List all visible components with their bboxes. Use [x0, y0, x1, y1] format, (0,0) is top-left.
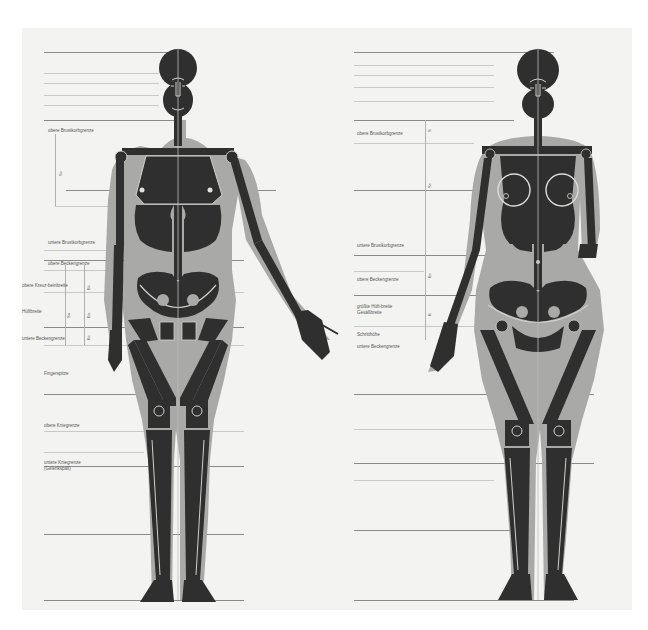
female-figure: [428, 48, 604, 600]
skeleton-figures: [0, 0, 648, 630]
male-figure: [104, 48, 338, 602]
